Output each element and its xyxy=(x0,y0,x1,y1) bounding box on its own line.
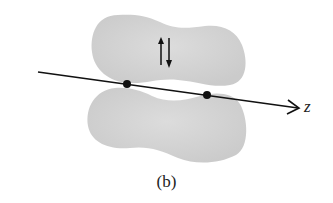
nucleus-right xyxy=(203,91,211,99)
axis-label-z: z xyxy=(304,97,311,117)
nucleus-left xyxy=(123,80,131,88)
figure-caption: (b) xyxy=(0,172,333,192)
lower-lobe xyxy=(87,88,246,163)
